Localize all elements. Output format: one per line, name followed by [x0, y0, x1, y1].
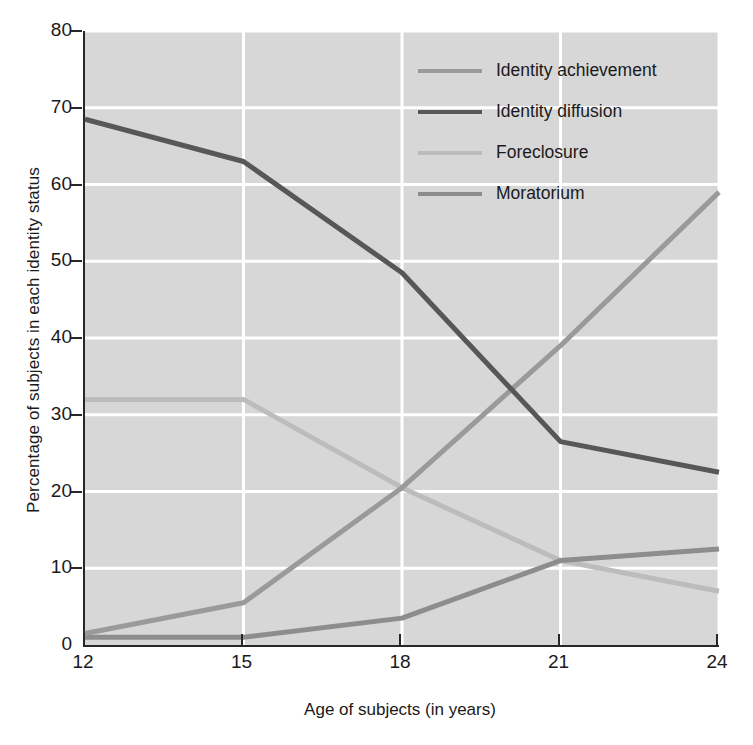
x-tick-label: 24 [687, 651, 747, 673]
legend-item[interactable]: Moratorium [418, 173, 718, 214]
x-tick-mark [558, 634, 560, 645]
chart-legend: Identity achievementIdentity diffusionFo… [418, 50, 718, 214]
legend-label: Moratorium [496, 183, 585, 204]
x-tick-mark [716, 634, 718, 645]
x-tick-label: 18 [370, 651, 430, 673]
legend-label: Identity achievement [496, 60, 657, 81]
legend-label: Foreclosure [496, 142, 588, 163]
x-tick-label: 12 [53, 651, 113, 673]
legend-label: Identity diffusion [496, 101, 622, 122]
legend-swatch-line-icon [418, 110, 482, 114]
x-tick-mark [241, 634, 243, 645]
chart-figure: Percentage of subjects in each identity … [0, 0, 753, 745]
legend-swatch-line-icon [418, 151, 482, 155]
legend-swatch-line-icon [418, 192, 482, 196]
legend-item[interactable]: Foreclosure [418, 132, 718, 173]
x-tick-label: 21 [529, 651, 589, 673]
legend-swatch-line-icon [418, 69, 482, 73]
x-tick-label: 15 [212, 651, 272, 673]
legend-item[interactable]: Identity diffusion [418, 91, 718, 132]
x-axis-title: Age of subjects (in years) [83, 700, 717, 720]
x-tick-mark [399, 634, 401, 645]
legend-item[interactable]: Identity achievement [418, 50, 718, 91]
